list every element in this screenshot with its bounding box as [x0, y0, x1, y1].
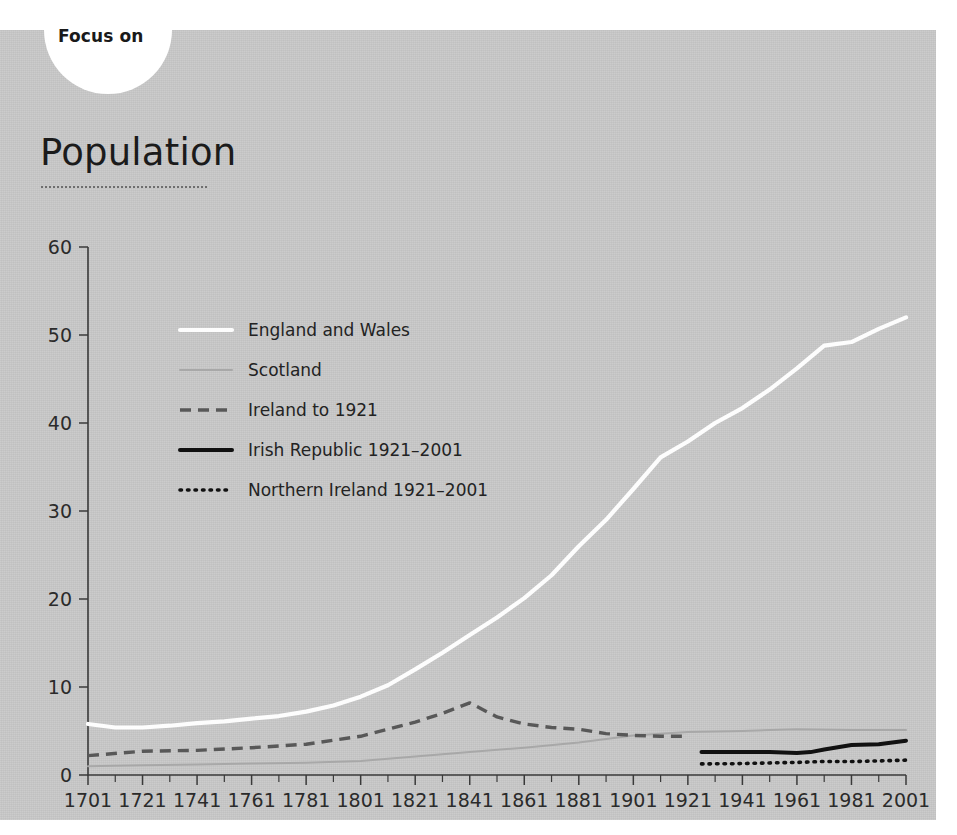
- legend-label-1: Scotland: [248, 360, 322, 380]
- x-tick-labels: 1701172117411761178118011821184118611881…: [64, 789, 930, 811]
- focus-on-kicker: Focus on: [58, 26, 143, 46]
- axis-lines: [88, 247, 906, 775]
- y-tick-label-60: 60: [48, 236, 72, 258]
- legend-label-3: Irish Republic 1921–2001: [248, 440, 463, 460]
- x-tick-label-1941: 1941: [718, 789, 766, 811]
- x-tick-label-1981: 1981: [827, 789, 875, 811]
- x-tick-label-1801: 1801: [336, 789, 384, 811]
- y-tick-label-30: 30: [48, 500, 72, 522]
- x-tick-label-1901: 1901: [609, 789, 657, 811]
- chart-legend: England and WalesScotlandIreland to 1921…: [180, 320, 488, 500]
- x-tick-label-1761: 1761: [227, 789, 275, 811]
- series-line-irish_republic: [702, 741, 907, 753]
- title-dotted-rule: [41, 186, 208, 189]
- x-tick-label-1741: 1741: [173, 789, 221, 811]
- y-tick-label-20: 20: [48, 588, 72, 610]
- chart-series-group: [88, 317, 906, 766]
- page-title: Population: [40, 131, 236, 174]
- chart-svg: 1701172117411761178118011821184118611881…: [0, 0, 957, 835]
- legend-label-0: England and Wales: [248, 320, 410, 340]
- y-tick-label-0: 0: [60, 764, 72, 786]
- x-tick-label-1701: 1701: [64, 789, 112, 811]
- x-tick-label-1841: 1841: [446, 789, 494, 811]
- y-tick-label-40: 40: [48, 412, 72, 434]
- y-tick-label-50: 50: [48, 324, 72, 346]
- page-root: Focus on Population 17011721174117611781…: [0, 0, 957, 835]
- x-tick-label-2001: 2001: [882, 789, 930, 811]
- y-tick-labels: 0102030405060: [48, 236, 72, 786]
- x-tick-label-1821: 1821: [391, 789, 439, 811]
- x-tick-label-1781: 1781: [282, 789, 330, 811]
- series-line-ireland_to_1921: [88, 703, 688, 756]
- series-line-northern_ireland: [702, 760, 907, 764]
- legend-label-2: Ireland to 1921: [248, 400, 378, 420]
- x-tick-label-1721: 1721: [118, 789, 166, 811]
- population-line-chart: 1701172117411761178118011821184118611881…: [0, 0, 957, 835]
- x-tick-label-1881: 1881: [555, 789, 603, 811]
- y-tick-label-10: 10: [48, 676, 72, 698]
- x-tick-label-1961: 1961: [773, 789, 821, 811]
- x-tick-label-1861: 1861: [500, 789, 548, 811]
- chart-axes: [79, 247, 906, 785]
- series-line-scotland: [88, 729, 906, 766]
- legend-label-4: Northern Ireland 1921–2001: [248, 480, 488, 500]
- series-line-england_and_wales: [88, 317, 906, 727]
- x-tick-label-1921: 1921: [664, 789, 712, 811]
